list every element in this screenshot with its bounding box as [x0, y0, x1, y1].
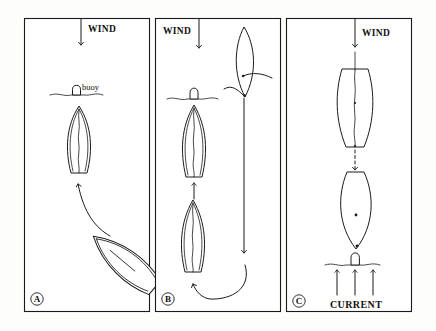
panel-c-badge: C	[293, 295, 305, 307]
panel-a-buoy-icon	[73, 85, 81, 95]
panel-b-frame	[156, 19, 281, 312]
panel-c-buoy-icon	[351, 253, 359, 265]
panel-b: WIND	[156, 19, 281, 312]
svg-text:A: A	[34, 294, 41, 304]
panel-a: WIND buoy A	[25, 19, 164, 312]
mooring-approach-diagram: WIND buoy A	[0, 0, 436, 331]
panel-a-badge: A	[31, 293, 43, 305]
panel-c: WIND	[287, 19, 412, 312]
panel-b-wind-label: WIND	[163, 26, 191, 36]
panel-c-frame	[287, 19, 412, 312]
panel-a-wind-label: WIND	[88, 24, 116, 34]
figure-root: WIND buoy A	[0, 0, 436, 331]
panel-c-wind-label: WIND	[362, 28, 390, 38]
panel-b-badge: B	[162, 293, 174, 305]
panel-c-current-label: CURRENT	[330, 299, 382, 310]
panel-b-buoy-icon	[190, 88, 198, 99]
svg-text:C: C	[296, 296, 303, 306]
svg-text:B: B	[165, 294, 171, 304]
panel-a-buoy-label: buoy	[82, 82, 100, 92]
